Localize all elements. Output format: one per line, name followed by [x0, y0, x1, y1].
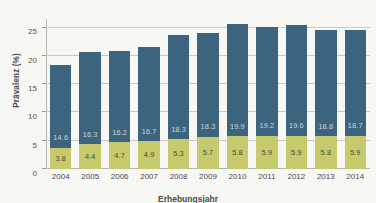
- bar-group[interactable]: 19.65.9: [286, 25, 308, 169]
- bar-segment-upper[interactable]: 18.3: [168, 35, 190, 139]
- bar-value-label-lower: 5.7: [203, 149, 214, 156]
- bar-segment-upper[interactable]: 18.8: [315, 30, 337, 136]
- bar-value-label-upper: 16.2: [109, 129, 131, 136]
- x-tick-label-2005: 2005: [75, 172, 104, 181]
- bar-segment-lower[interactable]: 5.3: [168, 139, 190, 169]
- plot-area: 14.63.816.34.416.24.716.74.918.35.318.35…: [46, 19, 370, 169]
- bar-group[interactable]: 16.34.4: [79, 52, 101, 169]
- bar-value-label-lower: 3.8: [55, 155, 66, 162]
- x-tick-label-2010: 2010: [223, 172, 252, 181]
- x-tick-label-2013: 2013: [311, 172, 340, 181]
- bar-segment-upper[interactable]: 19.2: [256, 27, 278, 136]
- bar-value-label-upper: 18.3: [197, 123, 219, 130]
- x-tick-label-2012: 2012: [282, 172, 311, 181]
- x-tick-label-2011: 2011: [252, 172, 281, 181]
- bar-group[interactable]: 14.63.8: [50, 65, 72, 169]
- bar-value-label-lower: 5.3: [173, 150, 184, 157]
- bar-segment-lower[interactable]: 5.8: [227, 136, 249, 169]
- bar-value-label-upper: 19.6: [286, 122, 308, 129]
- bar-value-label-upper: 18.3: [168, 126, 190, 133]
- chart-figure: Prävalenz (%) 14.63.816.34.416.24.716.74…: [0, 0, 376, 203]
- bar-value-label-upper: 18.8: [315, 123, 337, 130]
- bar-value-label-lower: 4.9: [144, 151, 155, 158]
- bar-group[interactable]: 19.25.9: [256, 27, 278, 169]
- bar-segment-lower[interactable]: 5.9: [345, 136, 367, 169]
- bar-group[interactable]: 18.35.7: [197, 33, 219, 169]
- bar-group[interactable]: 16.74.9: [138, 47, 160, 169]
- x-tick-label-2004: 2004: [46, 172, 75, 181]
- bar-segment-upper[interactable]: 16.2: [109, 51, 131, 143]
- x-tick-label-2008: 2008: [164, 172, 193, 181]
- bar-value-label-upper: 19.2: [256, 122, 278, 129]
- bar-group[interactable]: 18.35.3: [168, 35, 190, 169]
- bar-segment-lower[interactable]: 5.9: [256, 136, 278, 169]
- bar-segment-upper[interactable]: 19.6: [286, 25, 308, 136]
- bar-value-label-upper: 16.7: [138, 128, 160, 135]
- bar-value-label-upper: 19.9: [227, 123, 249, 130]
- bar-segment-lower[interactable]: 5.9: [286, 136, 308, 169]
- bar-segment-lower[interactable]: 4.7: [109, 142, 131, 169]
- y-axis-title: Prävalenz (%): [12, 21, 21, 141]
- bar-segment-upper[interactable]: 19.9: [227, 24, 249, 137]
- bar-group[interactable]: 18.85.8: [315, 30, 337, 169]
- bar-group[interactable]: 16.24.7: [109, 51, 131, 169]
- bar-value-label-upper: 14.6: [50, 134, 72, 141]
- bar-segment-upper[interactable]: 18.3: [197, 33, 219, 137]
- bar-segment-lower[interactable]: 5.7: [197, 137, 219, 169]
- bar-segment-lower[interactable]: 4.4: [79, 144, 101, 169]
- bar-value-label-lower: 4.7: [114, 152, 125, 159]
- x-tick-label-2006: 2006: [105, 172, 134, 181]
- bar-value-label-lower: 5.9: [262, 149, 273, 156]
- x-tick-label-2014: 2014: [341, 172, 370, 181]
- x-axis-title: Erhebungsjahr: [0, 194, 376, 203]
- bar-segment-upper[interactable]: 18.7: [345, 30, 367, 136]
- bar-value-label-lower: 4.4: [85, 153, 96, 160]
- x-axis-tick-labels: 2004200520062007200820092010201120122013…: [46, 172, 370, 186]
- x-tick-label-2007: 2007: [134, 172, 163, 181]
- bar-value-label-lower: 5.9: [291, 149, 302, 156]
- bar-value-label-lower: 5.8: [321, 149, 332, 156]
- bar-series-container: 14.63.816.34.416.24.716.74.918.35.318.35…: [46, 19, 370, 169]
- bar-value-label-upper: 16.3: [79, 131, 101, 138]
- bar-group[interactable]: 19.95.8: [227, 24, 249, 169]
- bar-value-label-lower: 5.8: [232, 149, 243, 156]
- x-tick-label-2009: 2009: [193, 172, 222, 181]
- bar-value-label-lower: 5.9: [350, 149, 361, 156]
- bar-segment-upper[interactable]: 16.7: [138, 47, 160, 142]
- bar-segment-lower[interactable]: 4.9: [138, 141, 160, 169]
- bar-segment-lower[interactable]: 3.8: [50, 148, 72, 170]
- bar-segment-upper[interactable]: 16.3: [79, 52, 101, 144]
- bar-group[interactable]: 18.75.9: [345, 30, 367, 169]
- bar-segment-upper[interactable]: 14.6: [50, 65, 72, 148]
- bar-value-label-upper: 18.7: [345, 122, 367, 129]
- bar-segment-lower[interactable]: 5.8: [315, 136, 337, 169]
